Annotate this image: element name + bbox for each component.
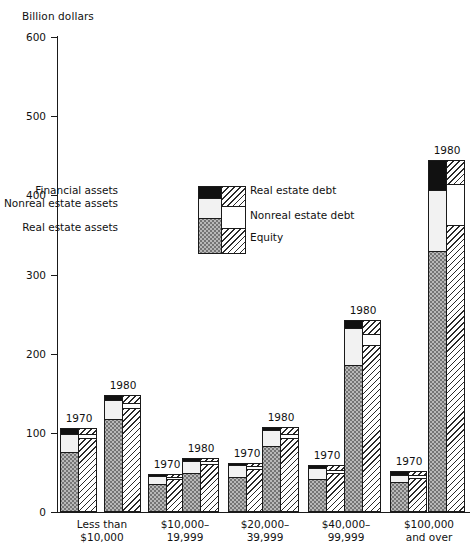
legend-label-financial-assets: Financial assets: [35, 185, 118, 196]
bar-assets: [344, 320, 363, 512]
plot-area: [58, 37, 470, 512]
bar-year-label: 1970: [380, 456, 438, 467]
legend-label-nonreal-estate-assets: Nonreal estate assets: [4, 198, 118, 209]
bar-liabilities-equity: [122, 395, 141, 512]
legend-label-real-estate-debt: Real estate debt: [250, 185, 336, 196]
legend-swatch-real-estate-assets: [199, 219, 221, 253]
x-axis-category-label: $100,000 and over: [378, 518, 475, 543]
bar-segment-nonreal-estate-assets: [391, 476, 408, 483]
bar-segment-real-estate-debt: [123, 396, 140, 404]
bar-segment-real-estate-assets: [429, 252, 446, 511]
bar-segment-nonreal-estate-assets: [429, 191, 446, 252]
bar-segment-financial-assets: [345, 321, 362, 330]
legend-swatch-equity: [222, 229, 245, 253]
bar-segment-real-estate-assets: [229, 478, 246, 511]
bar-segment-nonreal-estate-debt: [447, 185, 464, 226]
bar-segment-equity: [363, 346, 380, 511]
bar-segment-nonreal-estate-assets: [61, 435, 78, 453]
bar-segment-equity: [281, 439, 298, 511]
bar-assets: [262, 427, 281, 512]
bar-liabilities-equity: [280, 427, 299, 512]
bar-assets: [148, 474, 167, 512]
y-tick-mark: [51, 512, 58, 513]
bar-liabilities-equity: [446, 160, 465, 512]
bar-assets: [228, 463, 247, 512]
y-tick-mark: [51, 275, 58, 276]
bar-assets: [390, 471, 409, 512]
legend-swatch-nonreal-estate-assets: [199, 199, 221, 219]
bar-liabilities-equity: [78, 428, 97, 512]
bar-year-label: 1980: [418, 145, 475, 156]
bar-segment-nonreal-estate-assets: [263, 431, 280, 446]
bar-segment-nonreal-estate-assets: [229, 466, 246, 477]
y-tick-label: 600: [0, 32, 46, 42]
bar-segment-real-estate-debt: [363, 321, 380, 335]
bar-segment-equity: [447, 226, 464, 511]
bar-year-label: 1970: [138, 459, 196, 470]
legend-swatch-real-estate-debt: [222, 187, 245, 207]
legend-swatch-assets: [198, 186, 222, 254]
legend-label-real-estate-assets: Real estate assets: [22, 222, 118, 233]
bar-segment-equity: [409, 479, 426, 511]
y-tick-mark: [51, 354, 58, 355]
bar-assets: [308, 465, 327, 513]
x-axis-baseline: [57, 512, 470, 513]
y-tick-label: 300: [0, 270, 46, 280]
bar-segment-nonreal-estate-assets: [345, 329, 362, 366]
chart-root: Billion dollars 0100200300400500600 Less…: [0, 0, 475, 549]
bar-year-label: 1980: [94, 380, 152, 391]
bar-segment-financial-assets: [429, 161, 446, 191]
bar-segment-real-estate-assets: [183, 474, 200, 511]
legend-swatch-nonreal-estate-debt: [222, 207, 245, 229]
bar-assets: [60, 428, 79, 512]
bar-segment-real-estate-assets: [309, 480, 326, 511]
bar-segment-real-estate-assets: [149, 485, 166, 511]
bar-segment-real-estate-debt: [447, 161, 464, 185]
y-tick-mark: [51, 37, 58, 38]
bar-segment-nonreal-estate-assets: [309, 469, 326, 480]
legend-swatch-liabilities: [222, 186, 246, 254]
bar-segment-real-estate-assets: [105, 420, 122, 511]
bar-year-label: 1980: [334, 305, 392, 316]
y-tick-mark: [51, 116, 58, 117]
y-tick-label: 100: [0, 428, 46, 438]
legend-label-nonreal-estate-debt: Nonreal estate debt: [250, 210, 354, 221]
y-tick-mark: [51, 433, 58, 434]
bar-year-label: 1970: [50, 413, 108, 424]
bar-liabilities-equity: [362, 320, 381, 512]
bar-segment-nonreal-estate-debt: [363, 335, 380, 346]
bar-liabilities-equity: [326, 465, 345, 513]
bar-year-label: 1970: [218, 448, 276, 459]
bar-year-label: 1970: [298, 450, 356, 461]
legend-swatch-block: [198, 186, 246, 254]
bar-liabilities-equity: [200, 458, 219, 512]
y-tick-label: 200: [0, 349, 46, 359]
legend-swatch-financial-assets: [199, 187, 221, 199]
bar-segment-real-estate-assets: [391, 483, 408, 511]
bar-segment-real-estate-assets: [61, 453, 78, 511]
bar-segment-real-estate-assets: [345, 366, 362, 511]
bar-year-label: 1980: [252, 412, 310, 423]
legend-label-equity: Equity: [250, 232, 283, 243]
bar-segment-equity: [201, 465, 218, 511]
y-tick-label: 0: [0, 507, 46, 517]
y-axis-title: Billion dollars: [22, 10, 94, 22]
bar-segment-nonreal-estate-assets: [149, 477, 166, 485]
bar-liabilities-equity: [408, 471, 427, 512]
bar-segment-equity: [79, 439, 96, 511]
bar-segment-equity: [327, 474, 344, 511]
y-tick-label: 500: [0, 111, 46, 121]
